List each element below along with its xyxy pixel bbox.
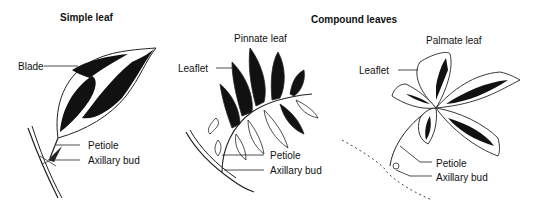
label-pinnate-axillary-bud: Axillary bud xyxy=(270,165,322,176)
label-simple-petiole: Petiole xyxy=(88,140,119,151)
pinnate-leaf-title: Pinnate leaf xyxy=(234,33,287,44)
label-simple-axillary-bud: Axillary bud xyxy=(88,155,140,166)
label-blade: Blade xyxy=(18,61,44,72)
label-palmate-axillary-bud: Axillary bud xyxy=(436,172,488,183)
label-pinnate-leaflet: Leaflet xyxy=(178,63,208,74)
simple-leaf-title: Simple leaf xyxy=(60,12,113,23)
compound-leaves-title: Compound leaves xyxy=(311,14,397,25)
simple-leaf-illustration xyxy=(28,48,156,198)
palmate-leaf-title: Palmate leaf xyxy=(426,35,482,46)
label-palmate-leaflet: Leaflet xyxy=(359,65,389,76)
label-pinnate-petiole: Petiole xyxy=(270,150,301,161)
label-palmate-petiole: Petiole xyxy=(436,158,467,169)
